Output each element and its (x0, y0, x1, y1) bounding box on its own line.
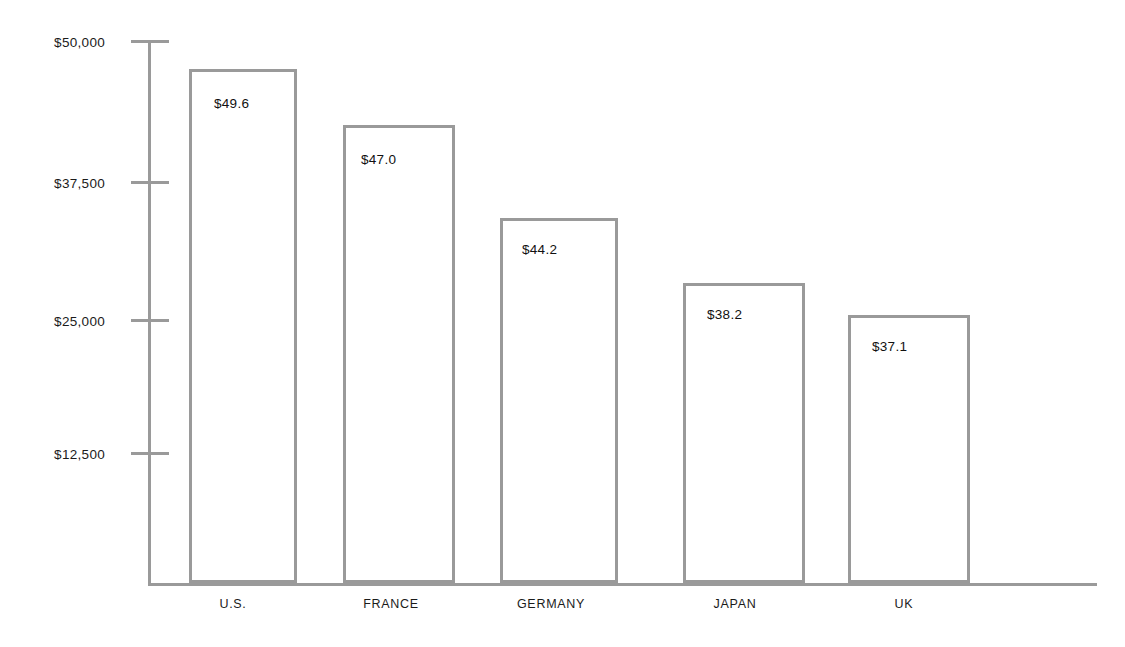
bar-value-germany: $44.2 (522, 242, 557, 257)
bar-us[interactable] (189, 69, 297, 583)
bar-uk[interactable] (848, 315, 970, 583)
category-label-japan: JAPAN (714, 597, 757, 611)
bar-value-us: $49.6 (214, 96, 249, 111)
bar-japan[interactable] (683, 283, 805, 583)
y-tick-25000 (131, 319, 169, 322)
bar-value-japan: $38.2 (707, 307, 742, 322)
bar-france[interactable] (343, 125, 455, 583)
y-tick-37500 (131, 181, 169, 184)
y-tick-12500 (131, 452, 169, 455)
category-label-uk: UK (895, 597, 914, 611)
plot-area: $50,000 $37,500 $25,000 $12,500 $49.6 $4… (0, 0, 1125, 647)
y-tick-50000 (131, 40, 169, 43)
y-axis-line (148, 41, 151, 586)
category-label-germany: GERMANY (517, 597, 585, 611)
y-tick-label-37500: $37,500 (33, 176, 105, 191)
bar-chart: $50,000 $37,500 $25,000 $12,500 $49.6 $4… (0, 0, 1125, 647)
x-axis-baseline (148, 583, 1097, 586)
category-label-france: FRANCE (363, 597, 419, 611)
y-tick-label-50000: $50,000 (33, 35, 105, 50)
bar-value-france: $47.0 (361, 152, 396, 167)
y-tick-label-12500: $12,500 (33, 447, 105, 462)
bar-germany[interactable] (500, 218, 618, 583)
bar-value-uk: $37.1 (872, 339, 907, 354)
y-tick-label-25000: $25,000 (33, 314, 105, 329)
category-label-us: U.S. (219, 597, 246, 611)
